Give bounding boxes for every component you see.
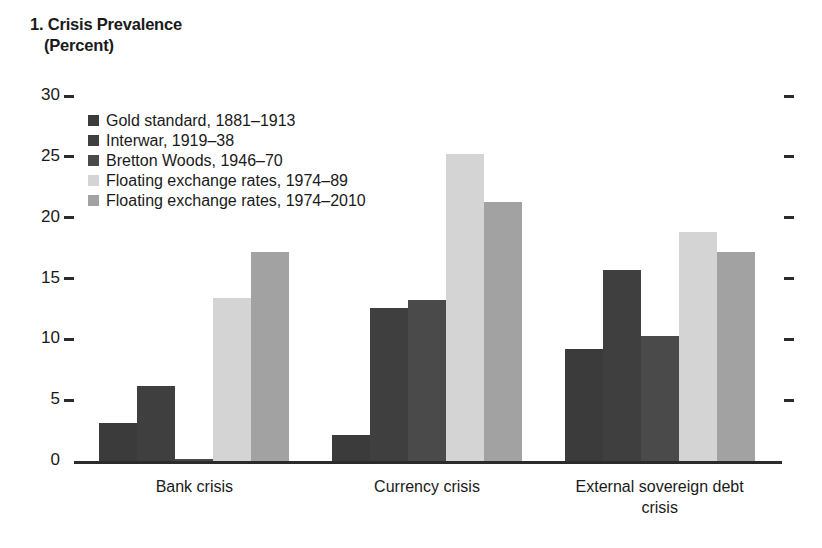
legend-swatch-icon xyxy=(88,115,99,126)
legend-item: Interwar, 1919–38 xyxy=(88,130,366,150)
legend-label: Gold standard, 1881–1913 xyxy=(106,111,295,130)
legend-label: Bretton Woods, 1946–70 xyxy=(106,151,283,170)
bar xyxy=(565,349,603,461)
legend-label: Floating exchange rates, 1974–2010 xyxy=(106,191,366,210)
legend-swatch-icon xyxy=(88,155,99,166)
legend-swatch-icon xyxy=(88,195,99,206)
bar xyxy=(175,459,213,461)
x-axis-category-label: External sovereign debt crisis xyxy=(550,476,770,518)
y-axis-tick-label: 10 xyxy=(41,328,60,348)
y-axis-tick-mark-right xyxy=(784,338,794,341)
x-axis-line xyxy=(74,461,782,464)
bar xyxy=(717,252,755,461)
y-axis-tick-mark xyxy=(64,338,74,341)
x-axis-category-label: Bank crisis xyxy=(84,476,304,497)
legend-label: Interwar, 1919–38 xyxy=(106,131,234,150)
bar xyxy=(484,202,522,461)
y-axis-tick-label: 15 xyxy=(41,268,60,288)
y-axis-tick-mark-right xyxy=(784,155,794,158)
legend-label: Floating exchange rates, 1974–89 xyxy=(106,171,348,190)
legend-item: Floating exchange rates, 1974–2010 xyxy=(88,190,366,210)
legend-item: Bretton Woods, 1946–70 xyxy=(88,150,366,170)
bar xyxy=(332,435,370,461)
y-axis-tick-label: 20 xyxy=(41,207,60,227)
y-axis-tick-mark xyxy=(64,216,74,219)
y-axis-tick-mark xyxy=(64,277,74,280)
chart-subtitle: (Percent) xyxy=(44,35,450,56)
chart-legend: Gold standard, 1881–1913Interwar, 1919–3… xyxy=(88,110,366,210)
y-axis-tick-mark xyxy=(64,155,74,158)
title-block: 1. Crisis Prevalence (Percent) xyxy=(30,14,450,56)
bar xyxy=(446,154,484,461)
y-axis-tick-mark-right xyxy=(784,399,794,402)
legend-item: Gold standard, 1881–1913 xyxy=(88,110,366,130)
x-axis-category-label: Currency crisis xyxy=(317,476,537,497)
y-axis-tick-label: 30 xyxy=(41,85,60,105)
bar xyxy=(137,386,175,461)
y-axis-tick-label: 5 xyxy=(51,389,60,409)
chart-figure: 1. Crisis Prevalence (Percent) 051015202… xyxy=(0,0,822,548)
bar xyxy=(679,232,717,461)
legend-item: Floating exchange rates, 1974–89 xyxy=(88,170,366,190)
bar xyxy=(370,308,408,461)
y-axis-tick-mark-right xyxy=(784,95,794,98)
legend-swatch-icon xyxy=(88,175,99,186)
bar xyxy=(99,423,137,461)
legend-swatch-icon xyxy=(88,135,99,146)
bar xyxy=(251,252,289,461)
y-axis-tick-mark xyxy=(64,399,74,402)
bar xyxy=(641,336,679,461)
bar xyxy=(408,300,446,461)
y-axis-tick-label: 25 xyxy=(41,146,60,166)
y-axis-tick-mark-right xyxy=(784,277,794,280)
bar xyxy=(213,298,251,461)
y-axis-tick-label: 0 xyxy=(51,450,60,470)
y-axis-tick-mark-right xyxy=(784,216,794,219)
y-axis-tick-mark xyxy=(64,95,74,98)
page-title: 1. Crisis Prevalence xyxy=(30,14,450,35)
bar xyxy=(603,270,641,461)
